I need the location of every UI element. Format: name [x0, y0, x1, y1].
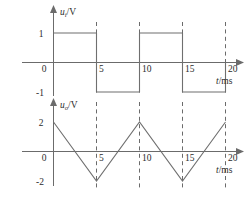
y-axis-arrow-top: [50, 5, 57, 13]
y-axis-top: [50, 5, 57, 96]
x-tick-label-bottom-15: 15: [185, 153, 195, 163]
y-axis-title-bottom: uo/V: [60, 100, 78, 111]
x-tick-label-top-15: 15: [185, 64, 195, 74]
x-axis-unit-top: /ms: [219, 76, 233, 86]
svg-text:ui/V: ui/V: [60, 7, 76, 18]
y-axis-unit-bottom: /V: [68, 100, 78, 110]
chart-output-waveform: uo/V 2 0 -2 5 10 15 20 t/ms: [22, 98, 244, 188]
waveform-figure: ui/V 1 0 -1 5 10 15 20 t/ms: [0, 0, 249, 201]
x-tick-label-top-5: 5: [99, 64, 104, 74]
y-axis-bottom: [50, 98, 57, 186]
x-tick-label-bottom-20: 20: [228, 153, 238, 163]
x-axis-top: [22, 59, 244, 66]
figure-container: ui/V 1 0 -1 5 10 15 20 t/ms: [0, 0, 249, 201]
dashed-gridlines-bottom: [97, 102, 226, 188]
x-tick-label-bottom-10: 10: [142, 153, 152, 163]
y-tick-label-top-1: 1: [39, 29, 44, 39]
y-tick-label-bottom-neg2: -2: [36, 177, 44, 187]
y-tick-label-bottom-2: 2: [39, 118, 44, 128]
y-tick-label-bottom-0: 0: [42, 153, 47, 163]
x-tick-label-top-10: 10: [142, 64, 152, 74]
x-tick-label-top-20: 20: [228, 64, 238, 74]
y-tick-label-top-0: 0: [42, 64, 47, 74]
y-axis-title-top: ui/V: [60, 7, 76, 18]
svg-text:uo/V: uo/V: [60, 100, 78, 111]
x-axis-bottom: [22, 148, 244, 155]
x-axis-title-bottom: t/ms: [216, 165, 233, 175]
y-axis-unit-top: /V: [67, 7, 77, 17]
y-tick-label-top-neg1: -1: [36, 88, 44, 98]
x-tick-label-bottom-5: 5: [99, 153, 104, 163]
y-axis-arrow-bottom: [50, 98, 57, 106]
x-axis-title-top: t/ms: [216, 76, 233, 86]
chart-input-waveform: ui/V 1 0 -1 5 10 15 20 t/ms: [22, 5, 244, 98]
x-axis-unit-bottom: /ms: [219, 165, 233, 175]
